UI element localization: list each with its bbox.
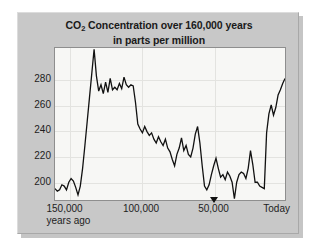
x-tick-label: Today xyxy=(246,203,290,215)
y-tick-label: 200 xyxy=(21,177,51,187)
chart-subtitle: in parts per million xyxy=(113,34,205,46)
chart-title-co: CO xyxy=(66,19,82,31)
chart-title: CO2 Concentration over 160,000 years in … xyxy=(18,19,300,46)
x-tick-label-text: Today xyxy=(263,203,290,214)
chart-title-subscript: 2 xyxy=(81,24,85,33)
x-tick-label-text: 50,000 xyxy=(198,203,229,214)
y-tick-label: 260 xyxy=(21,100,51,110)
plot-area xyxy=(54,47,286,201)
x-axis-label: years ago xyxy=(47,215,95,227)
y-tick-label: 220 xyxy=(21,151,51,161)
y-axis-ticks: 200220240260280 xyxy=(18,47,51,201)
y-tick-label: 280 xyxy=(21,74,51,84)
x-tick-label-text: 100,000 xyxy=(123,203,159,214)
x-tick-label: 50,000 xyxy=(190,203,238,215)
chart-panel: CO2 Concentration over 160,000 years in … xyxy=(17,12,299,234)
chart-screenshot: CO2 Concentration over 160,000 years in … xyxy=(0,0,322,252)
x-axis-ticks: 150,000years ago100,00050,000Today xyxy=(38,203,300,233)
chart-title-rest: Concentration over 160,000 years xyxy=(85,19,252,31)
y-tick-label: 240 xyxy=(21,125,51,135)
chart-title-line1: CO2 Concentration over 160,000 years xyxy=(66,19,253,31)
x-tick-label: 150,000years ago xyxy=(47,203,95,226)
x-tick-label: 100,000 xyxy=(117,203,165,215)
series-line-co2 xyxy=(55,48,285,200)
x-tick-label-text: 150,000 xyxy=(47,203,83,214)
